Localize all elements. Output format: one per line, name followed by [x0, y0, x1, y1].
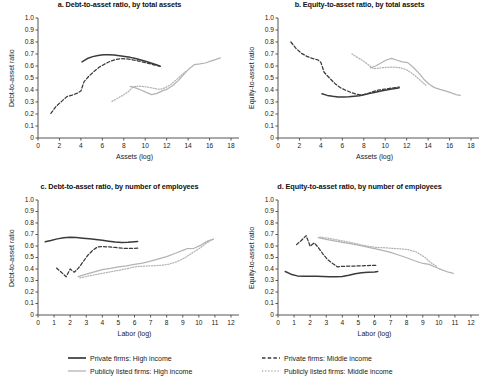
panel-b-y-tick-label: 0.2	[252, 110, 274, 117]
panel-c-y-tick-label: 0.4	[12, 265, 34, 272]
panel-b-y-tick-label: 0.5	[252, 74, 274, 81]
panel-d-y-tick-label: 0.8	[252, 219, 274, 226]
panel-d-y-tick-label: 0.4	[252, 265, 274, 272]
panel-b-y-tick-label: 1.0	[252, 14, 274, 21]
chart-panel-c: c. Debt-to-asset ratio, by number of emp…	[0, 182, 239, 350]
panel-a-y-tick-label: 1.0	[12, 14, 34, 21]
legend-swatch-private-high-solid-line	[68, 354, 86, 362]
panel-b-y-tick-label: 0.6	[252, 62, 274, 69]
panel-c-plot-area: 00.10.20.30.40.50.60.70.80.91.0012345678…	[38, 200, 231, 315]
panel-b-x-axis-label: Assets (log)	[278, 153, 471, 160]
panel-d-y-tick-label: 0.3	[252, 276, 274, 283]
panel-b-y-tick-label: 0.4	[252, 86, 274, 93]
panel-a-y-tick-label: 0	[12, 134, 34, 141]
panel-b-y-tick-label: 0.8	[252, 38, 274, 45]
legend-swatch-public-mid-dotted-line	[262, 367, 280, 375]
legend-swatch-public-high-solid-line	[68, 367, 86, 375]
panel-c-y-tick-label: 0.1	[12, 299, 34, 306]
panel-b-y-tick-label: 0	[252, 134, 274, 141]
panel-a-series-line	[112, 71, 186, 101]
panel-a-y-tick-label: 0.6	[12, 62, 34, 69]
panel-c-x-axis-label: Labor (log)	[38, 330, 231, 337]
panel-a-plot-area: 00.10.20.30.40.50.60.70.80.91.0024681012…	[38, 18, 231, 138]
panel-a-y-tick-label: 0.3	[12, 98, 34, 105]
panel-c-y-tick-label: 0	[12, 311, 34, 318]
panel-a-series-line	[130, 58, 220, 95]
panel-c-canvas	[38, 200, 245, 327]
panel-c-y-tick-label: 0.3	[12, 276, 34, 283]
panel-d-y-tick-label: 0.6	[252, 242, 274, 249]
panel-a-y-tick-label: 0.8	[12, 38, 34, 45]
panel-a-title: a. Debt-to-asset ratio, by total assets	[0, 0, 239, 9]
panel-c-y-tick-label: 0.5	[12, 253, 34, 260]
panel-c-y-tick-label: 0.6	[12, 242, 34, 249]
panel-b-y-tick-label: 0.9	[252, 26, 274, 33]
panel-c-y-tick-label: 0.9	[12, 207, 34, 214]
legend-item-private-mid: Private firms: Middle income	[262, 354, 372, 362]
panel-a-x-axis-label: Assets (log)	[38, 153, 231, 160]
chart-panel-a: a. Debt-to-asset ratio, by total assets …	[0, 0, 239, 176]
panel-d-y-tick-label: 0.5	[252, 253, 274, 260]
panel-b-y-tick-label: 0.1	[252, 122, 274, 129]
panel-c-series-line	[80, 239, 213, 278]
panel-b-plot-area: 00.10.20.30.40.50.60.70.80.91.0024681012…	[278, 18, 471, 138]
figure-root: a. Debt-to-asset ratio, by total assets …	[0, 0, 479, 386]
panel-a-y-tick-label: 0.5	[12, 74, 34, 81]
panel-c-y-tick-label: 0.7	[12, 230, 34, 237]
panel-b-series-line	[291, 42, 399, 95]
panel-d-series-line	[285, 272, 377, 277]
panel-d-y-tick-label: 0	[252, 311, 274, 318]
panel-b-title: b. Equity-to-asset ratio, by total asset…	[240, 0, 479, 9]
panel-d-y-tick-label: 1.0	[252, 196, 274, 203]
panel-b-canvas	[278, 18, 479, 150]
panel-d-title: d. Equity-to-asset ratio, by number of e…	[240, 182, 479, 191]
panel-a-y-tick-label: 0.7	[12, 50, 34, 57]
panel-a-series-line	[82, 55, 160, 67]
legend-item-public-mid: Publicly listed firms: Middle income	[262, 367, 393, 375]
panel-c-title: c. Debt-to-asset ratio, by number of emp…	[0, 182, 239, 191]
panel-c-series-line	[78, 239, 213, 277]
panel-d-y-tick-label: 0.1	[252, 299, 274, 306]
panel-c-series-line	[45, 237, 137, 242]
panel-c-series-line	[57, 246, 138, 276]
chart-panel-b: b. Equity-to-asset ratio, by total asset…	[240, 0, 479, 176]
legend-label-private-mid: Private firms: Middle income	[284, 355, 372, 362]
panel-a-y-tick-label: 0.1	[12, 122, 34, 129]
panel-d-y-tick-label: 0.9	[252, 207, 274, 214]
panel-c-y-tick-label: 0.2	[12, 288, 34, 295]
figure-legend: Private firms: High income Private firms…	[0, 352, 479, 386]
legend-label-private-high: Private firms: High income	[90, 355, 172, 362]
legend-swatch-private-mid-dashed-line	[262, 354, 280, 362]
panel-d-series-line	[318, 238, 453, 274]
legend-label-public-mid: Publicly listed firms: Middle income	[284, 368, 393, 375]
panel-a-y-tick-label: 0.2	[12, 110, 34, 117]
panel-b-y-tick-label: 0.7	[252, 50, 274, 57]
panel-a-canvas	[38, 18, 245, 150]
panel-d-canvas	[278, 200, 479, 327]
panel-d-plot-area: 00.10.20.30.40.50.60.70.80.91.0012345678…	[278, 200, 471, 315]
panel-a-y-tick-label: 0.9	[12, 26, 34, 33]
chart-panel-d: d. Equity-to-asset ratio, by number of e…	[240, 182, 479, 350]
legend-label-public-high: Publicly listed firms: High income	[90, 368, 192, 375]
panel-c-y-tick-label: 1.0	[12, 196, 34, 203]
legend-item-public-high: Publicly listed firms: High income	[68, 367, 192, 375]
panel-d-y-tick-label: 0.2	[252, 288, 274, 295]
panel-a-y-tick-label: 0.4	[12, 86, 34, 93]
panel-d-y-tick-label: 0.7	[252, 230, 274, 237]
panel-d-x-axis-label: Labor (log)	[278, 330, 471, 337]
panel-c-y-tick-label: 0.8	[12, 219, 34, 226]
panel-b-y-tick-label: 0.3	[252, 98, 274, 105]
legend-item-private-high: Private firms: High income	[68, 354, 172, 362]
